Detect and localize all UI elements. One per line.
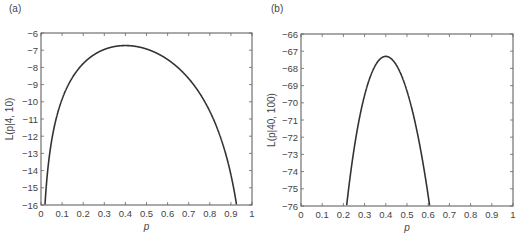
y-tick-label: −70 xyxy=(282,97,298,108)
chart-b: 00.10.20.30.40.50.60.70.80.91−66−67−68−6… xyxy=(262,0,524,241)
y-tick-label: −6 xyxy=(27,28,38,39)
x-tick-label: 0.7 xyxy=(443,209,456,220)
x-tick-label: 0.6 xyxy=(161,208,174,219)
x-tick-label: 0.5 xyxy=(400,209,413,220)
y-tick-label: −75 xyxy=(282,183,298,194)
y-tick-label: −10 xyxy=(22,96,38,107)
x-tick-label: 0.4 xyxy=(379,209,392,220)
x-tick-label: 0 xyxy=(298,209,303,220)
y-tick-label: −7 xyxy=(27,45,38,56)
y-tick-label: −9 xyxy=(27,79,38,90)
x-tick-label: 0.8 xyxy=(203,208,216,219)
likelihood-curve xyxy=(347,56,430,205)
x-tick-label: 0.4 xyxy=(119,208,132,219)
x-tick-label: 0 xyxy=(38,208,43,219)
y-axis-title: L(p|40, 100) xyxy=(266,93,277,147)
y-tick-label: −71 xyxy=(282,115,298,126)
x-tick-label: 0.5 xyxy=(140,208,153,219)
panel-b: (b) 00.10.20.30.40.50.60.70.80.91−66−67−… xyxy=(262,0,524,241)
x-tick-label: 0.3 xyxy=(98,208,111,219)
y-tick-label: −66 xyxy=(282,29,298,40)
x-tick-label: 0.9 xyxy=(224,208,237,219)
y-tick-label: −13 xyxy=(22,148,38,159)
y-tick-label: −68 xyxy=(282,63,298,74)
y-tick-label: −67 xyxy=(282,46,298,57)
y-tick-label: −11 xyxy=(23,114,38,125)
x-tick-label: 0.6 xyxy=(422,209,435,220)
x-tick-label: 0.3 xyxy=(358,209,371,220)
y-axis-title: L(p|4, 10) xyxy=(4,98,15,141)
panel-a: (a) 00.10.20.30.40.50.60.70.80.91−6−7−8−… xyxy=(0,0,262,241)
y-tick-label: −73 xyxy=(282,149,298,160)
y-tick-label: −69 xyxy=(282,80,298,91)
x-tick-label: 1 xyxy=(510,209,515,220)
x-tick-label: 1 xyxy=(249,208,254,219)
x-tick-label: 0.1 xyxy=(316,209,329,220)
x-axis-title: p xyxy=(403,222,410,233)
y-tick-label: −15 xyxy=(22,182,38,193)
y-tick-label: −74 xyxy=(282,166,298,177)
x-tick-label: 0.1 xyxy=(55,208,68,219)
chart-a: 00.10.20.30.40.50.60.70.80.91−6−7−8−9−10… xyxy=(0,0,262,241)
x-axis-title: p xyxy=(143,221,150,232)
y-tick-label: −16 xyxy=(22,200,38,211)
x-tick-label: 0.2 xyxy=(337,209,350,220)
x-tick-label: 0.8 xyxy=(464,209,477,220)
y-tick-label: −12 xyxy=(22,131,38,142)
x-tick-label: 0.9 xyxy=(485,209,498,220)
y-tick-label: −8 xyxy=(27,62,38,73)
x-tick-label: 0.2 xyxy=(77,208,90,219)
likelihood-curve xyxy=(45,46,236,205)
plot-frame xyxy=(301,34,513,206)
plot-frame xyxy=(41,33,252,205)
x-tick-label: 0.7 xyxy=(182,208,195,219)
y-tick-label: −72 xyxy=(282,132,298,143)
y-tick-label: −14 xyxy=(22,165,38,176)
y-tick-label: −76 xyxy=(282,201,298,212)
